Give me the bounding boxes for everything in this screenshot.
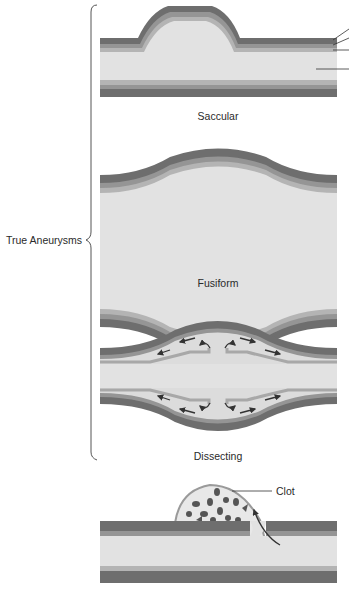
caption-dissecting: Dissecting	[194, 450, 243, 462]
aneurysm-diagram: True Aneurysms Saccular Fusiform	[0, 0, 349, 598]
saccular-panel: Saccular	[100, 6, 349, 122]
clot-label: Clot	[276, 485, 295, 497]
group-label: True Aneurysms	[6, 234, 82, 246]
caption-saccular: Saccular	[198, 110, 239, 122]
caption-fusiform: Fusiform	[198, 277, 239, 289]
false-aneurysm-panel: Clot	[100, 485, 337, 583]
true-aneurysms-bracket	[86, 5, 97, 460]
dissecting-panel: Dissecting	[100, 321, 337, 462]
